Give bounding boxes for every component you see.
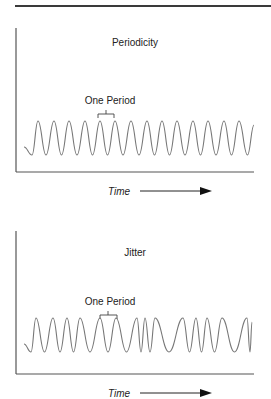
- jitter-waveform: [24, 318, 252, 352]
- arrow-head-icon: [200, 389, 212, 397]
- time-axis-label: Time: [108, 186, 131, 197]
- panel-title: Periodicity: [112, 37, 158, 48]
- period-bracket: [98, 110, 114, 118]
- period-bracket: [100, 311, 117, 319]
- periodicity-panel: Periodicity One Period Time: [0, 0, 271, 200]
- periodic-waveform: [24, 121, 254, 155]
- jitter-panel: Jitter One Period Time: [0, 200, 271, 399]
- arrow-head-icon: [200, 187, 212, 195]
- panel-title: Jitter: [124, 247, 146, 258]
- one-period-label: One Period: [85, 95, 136, 106]
- time-axis-label: Time: [108, 388, 131, 399]
- one-period-label: One Period: [85, 296, 136, 307]
